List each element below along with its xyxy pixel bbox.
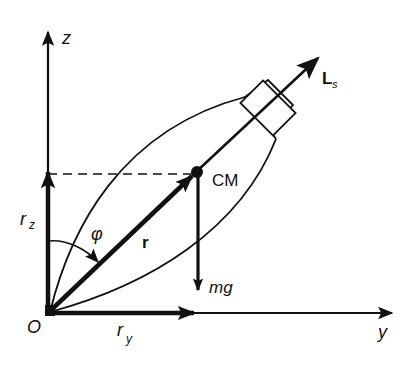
top-body-outline-lower <box>50 139 276 312</box>
spin-angular-momentum-arrow <box>196 58 318 172</box>
spinning-top-diagram: z y O r z r y r φ CM mg L s <box>0 0 418 372</box>
r-vector-arrow <box>48 176 192 313</box>
rz-label-subscript: z <box>28 218 35 232</box>
origin-point <box>45 305 55 316</box>
y-axis-label: y <box>376 322 388 342</box>
mg-label: mg <box>209 278 233 297</box>
origin-label: O <box>27 317 41 337</box>
r-vector-label: r <box>142 233 149 252</box>
cm-label: CM <box>212 171 238 190</box>
ry-label: r <box>117 320 124 340</box>
z-axis-label: z <box>61 28 71 48</box>
handle-square <box>240 80 295 135</box>
ry-label-subscript: y <box>125 332 133 346</box>
ls-label-subscript: s <box>332 78 338 90</box>
ls-label: L <box>322 69 332 88</box>
rz-label: r <box>20 209 27 229</box>
phi-label: φ <box>91 224 103 244</box>
